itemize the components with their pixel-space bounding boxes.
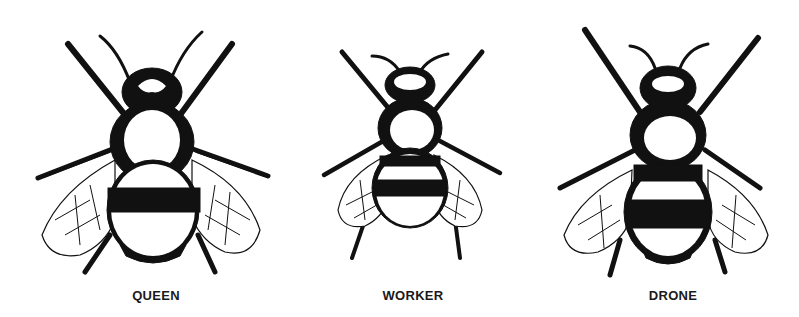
drone-abdomen-band [626, 200, 710, 228]
drone-bee-illustration [550, 20, 780, 280]
queen-abdomen-band [108, 188, 200, 212]
queen-antenna-right [170, 32, 202, 82]
queen-bee-illustration [30, 20, 280, 280]
worker-antenna-right [420, 54, 448, 72]
queen-antenna-left [100, 36, 130, 82]
worker-abdomen-band [374, 180, 446, 196]
drone-antenna-right [680, 44, 708, 68]
drone-leg-front-right [700, 38, 758, 112]
worker-label: WORKER [353, 288, 473, 303]
drone-antenna-left [630, 46, 655, 68]
worker-bee-illustration [310, 40, 510, 270]
queen-label: QUEEN [96, 288, 216, 303]
drone-label: DRONE [613, 288, 733, 303]
